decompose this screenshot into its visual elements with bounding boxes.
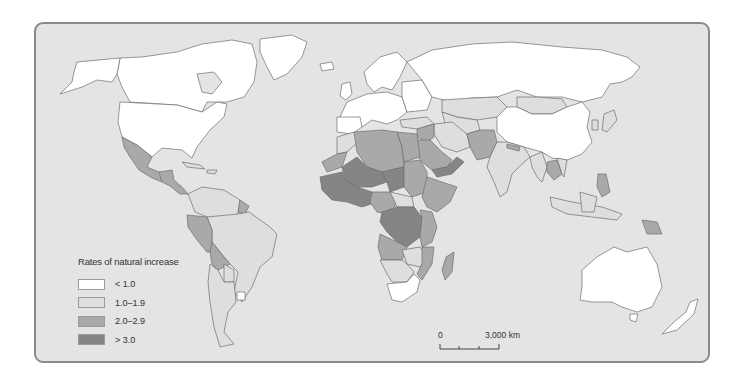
region-ethiopia-horn — [422, 177, 457, 212]
region-tasmania — [630, 314, 638, 322]
region-australia — [580, 247, 662, 312]
scale-bar-line — [439, 343, 501, 351]
legend-label: > 3.0 — [115, 335, 135, 345]
legend-item-2-2.9: 2.0–2.9 — [78, 312, 179, 331]
region-scandinavia — [364, 52, 407, 92]
region-uk — [340, 82, 352, 100]
legend-item-lt1: < 1.0 — [78, 275, 179, 294]
region-papua-new-guinea — [642, 220, 662, 234]
legend-item-1-1.9: 1.0–1.9 — [78, 294, 179, 313]
map-frame: Rates of natural increase < 1.0 1.0–1.9 … — [34, 22, 710, 363]
region-uruguay — [237, 292, 245, 300]
region-central-america — [159, 170, 188, 194]
region-philippines — [597, 174, 610, 197]
scale-end-label: 3,000 km — [485, 330, 520, 340]
region-east-africa — [420, 210, 437, 247]
region-india — [487, 142, 530, 197]
scale-bar: 0 3,000 km — [434, 330, 514, 360]
legend-label: 1.0–1.9 — [115, 298, 145, 308]
region-canada — [117, 40, 257, 112]
legend-label: 2.0–2.9 — [115, 316, 145, 326]
region-greenland — [260, 35, 307, 80]
region-japan — [602, 110, 617, 132]
legend-swatch-lt1 — [78, 279, 105, 290]
region-alaska — [60, 58, 120, 94]
legend-swatch-gt3 — [78, 334, 105, 345]
scale-start-label: 0 — [438, 330, 443, 340]
legend-item-gt3: > 3.0 — [78, 331, 179, 350]
region-russia — [407, 42, 640, 102]
region-hispaniola — [207, 170, 217, 174]
region-guyana — [238, 200, 249, 214]
legend-label: < 1.0 — [115, 279, 135, 289]
legend: Rates of natural increase < 1.0 1.0–1.9 … — [78, 256, 179, 349]
legend-swatch-1-1.9 — [78, 297, 105, 308]
region-madagascar — [442, 252, 454, 280]
region-new-zealand — [662, 299, 698, 334]
region-cuba — [182, 162, 205, 169]
region-myanmar-thailand — [530, 152, 547, 182]
region-borneo — [580, 192, 597, 212]
region-iceland — [320, 62, 334, 71]
legend-title: Rates of natural increase — [78, 256, 179, 267]
region-korea — [592, 120, 598, 130]
legend-swatch-2-2.9 — [78, 316, 105, 327]
region-colombia-venezuela — [188, 187, 240, 218]
